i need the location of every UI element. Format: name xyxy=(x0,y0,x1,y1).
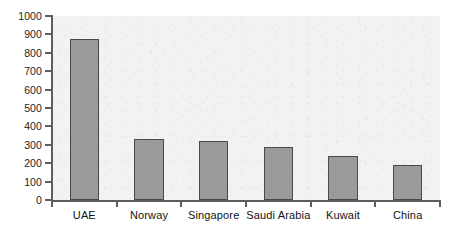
plot-area xyxy=(52,16,440,201)
y-axis-tick xyxy=(45,15,52,17)
y-axis-tick xyxy=(45,144,52,146)
x-axis-label-saudi-arabia: Saudi Arabia xyxy=(246,209,311,221)
y-axis-tick xyxy=(45,125,52,127)
x-axis-tick xyxy=(439,202,441,207)
y-axis-tick xyxy=(45,52,52,54)
bar-norway xyxy=(134,139,163,200)
y-axis-tick-label: 900 xyxy=(2,29,42,39)
y-axis-tick xyxy=(45,107,52,109)
x-axis-label-norway: Norway xyxy=(117,209,182,221)
x-axis-label-singapore: Singapore xyxy=(181,209,246,221)
y-axis-tick xyxy=(45,199,52,201)
y-axis-tick xyxy=(45,33,52,35)
y-axis-tick xyxy=(45,162,52,164)
y-axis-tick-label: 600 xyxy=(2,85,42,95)
x-axis-tick xyxy=(116,202,118,207)
bar-singapore xyxy=(199,141,228,200)
x-axis-tick xyxy=(51,202,53,207)
x-axis-tick xyxy=(374,202,376,207)
bar-kuwait xyxy=(328,156,357,200)
y-axis-tick xyxy=(45,181,52,183)
x-axis-label-uae: UAE xyxy=(52,209,117,221)
bar-china xyxy=(393,165,422,200)
bar-saudi-arabia xyxy=(264,147,293,200)
bar-uae xyxy=(70,39,99,200)
y-axis-tick-label: 200 xyxy=(2,158,42,168)
bar-chart-figure: 01002003004005006007008009001000 UAENorw… xyxy=(0,0,451,240)
y-axis-tick-label: 400 xyxy=(2,121,42,131)
x-axis-tick xyxy=(310,202,312,207)
y-axis-tick xyxy=(45,70,52,72)
x-axis-tick xyxy=(180,202,182,207)
y-axis-tick xyxy=(45,89,52,91)
y-axis-tick-label: 1000 xyxy=(2,11,42,21)
y-axis-tick-label: 100 xyxy=(2,177,42,187)
y-axis-tick-label: 500 xyxy=(2,103,42,113)
x-axis-tick xyxy=(245,202,247,207)
y-axis-tick-label: 800 xyxy=(2,48,42,58)
x-axis-label-kuwait: Kuwait xyxy=(311,209,376,221)
x-axis-label-china: China xyxy=(375,209,440,221)
y-axis-tick-label: 700 xyxy=(2,66,42,76)
y-axis-tick-label: 0 xyxy=(2,195,42,205)
y-axis-tick-label: 300 xyxy=(2,140,42,150)
